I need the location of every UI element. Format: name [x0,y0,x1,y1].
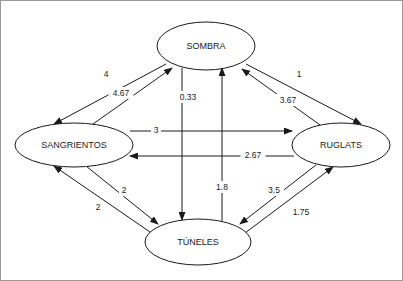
edge-weight-label: 3 [154,125,159,135]
edge-weight-label: 3.5 [268,185,280,195]
edge-weight-label: 1 [297,69,302,79]
node-sombra[interactable]: SOMBRA [157,22,255,70]
edge-weight-label: 2 [122,185,127,195]
graph-diagram: SOMBRASANGRIENTOSRUGLATSTÚNELES 44.6713.… [0,0,403,281]
edge-line [54,166,150,232]
edge-tuneles-to-sangrientos [54,166,150,232]
edge-weight-label: 2.67 [245,150,262,160]
node-label: TÚNELES [177,237,219,247]
node-label: SOMBRA [186,41,225,51]
diagram-canvas: SOMBRASANGRIENTOSRUGLATSTÚNELES 44.6713.… [0,0,403,281]
edge-weight-label: 0.33 [180,92,197,102]
node-tuneles[interactable]: TÚNELES [145,219,251,265]
nodes-layer: SOMBRASANGRIENTOSRUGLATSTÚNELES [15,22,390,265]
edge-weight-label: 4 [104,69,109,79]
edge-weight-label: 4.67 [113,88,130,98]
edge-weight-label: 2 [96,202,101,212]
node-label: RUGLATS [320,140,362,150]
edge-line [245,167,333,233]
edge-weight-label: 1.8 [216,182,228,192]
edge-weight-label: 1.75 [293,207,310,217]
node-ruglats[interactable]: RUGLATS [292,123,390,167]
edge-tuneles-to-ruglats [245,167,333,233]
edge-weight-label: 3.67 [280,95,297,105]
node-label: SANGRIENTOS [41,140,106,150]
node-sangrientos[interactable]: SANGRIENTOS [15,123,133,167]
